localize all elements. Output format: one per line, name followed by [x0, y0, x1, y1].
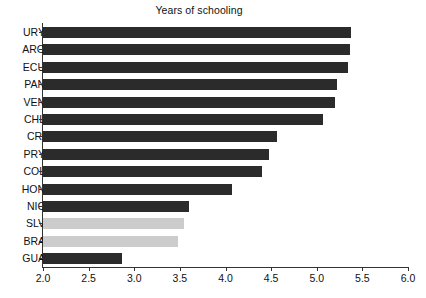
bar	[43, 184, 232, 195]
bar-row: PRY	[0, 146, 426, 163]
x-axis-tick	[89, 267, 90, 271]
x-axis-tick	[226, 267, 227, 271]
x-axis-tick	[43, 267, 44, 271]
bar	[43, 114, 323, 125]
x-axis-tick	[134, 267, 135, 271]
x-axis-tick	[317, 267, 318, 271]
bar	[43, 253, 122, 264]
x-axis-tick-label: 4.0	[206, 272, 246, 284]
x-axis-tick-label: 3.5	[160, 272, 200, 284]
bar-row: URY	[0, 24, 426, 41]
bar	[43, 236, 178, 247]
x-axis-tick	[408, 267, 409, 271]
bar-row: HON	[0, 181, 426, 198]
x-axis-tick-label: 3.0	[114, 272, 154, 284]
bar-row: CHL	[0, 111, 426, 128]
bar-row: BRA	[0, 233, 426, 250]
x-axis-tick	[271, 267, 272, 271]
x-axis-tick-label: 2.0	[23, 272, 63, 284]
plot-area: URYARGECUPANVENCHLCRIPRYCOLHONNICSLVBRAG…	[0, 0, 426, 298]
bar-row: ARG	[0, 41, 426, 58]
bar	[43, 44, 350, 55]
bar	[43, 131, 277, 142]
bar-row: PAN	[0, 76, 426, 93]
bar	[43, 97, 335, 108]
x-axis-tick-label: 4.5	[251, 272, 291, 284]
x-axis-tick-label: 2.5	[69, 272, 109, 284]
bar	[43, 27, 351, 38]
bar-row: SLV	[0, 215, 426, 232]
bar-chart: Years of schooling URYARGECUPANVENCHLCRI…	[0, 0, 426, 298]
bar	[43, 79, 337, 90]
x-axis-tick	[362, 267, 363, 271]
bar-row: ECU	[0, 59, 426, 76]
bar-row: NIC	[0, 198, 426, 215]
bar-row: VEN	[0, 94, 426, 111]
bar-row: GUA	[0, 250, 426, 267]
bar	[43, 201, 189, 212]
bar-row: COL	[0, 163, 426, 180]
bar	[43, 166, 262, 177]
bar-row: CRI	[0, 128, 426, 145]
bar	[43, 149, 269, 160]
bar	[43, 218, 184, 229]
x-axis-tick	[180, 267, 181, 271]
x-axis-tick-label: 5.5	[342, 272, 382, 284]
bar	[43, 62, 348, 73]
x-axis-tick-label: 5.0	[297, 272, 337, 284]
x-axis-tick-label: 6.0	[388, 272, 426, 284]
